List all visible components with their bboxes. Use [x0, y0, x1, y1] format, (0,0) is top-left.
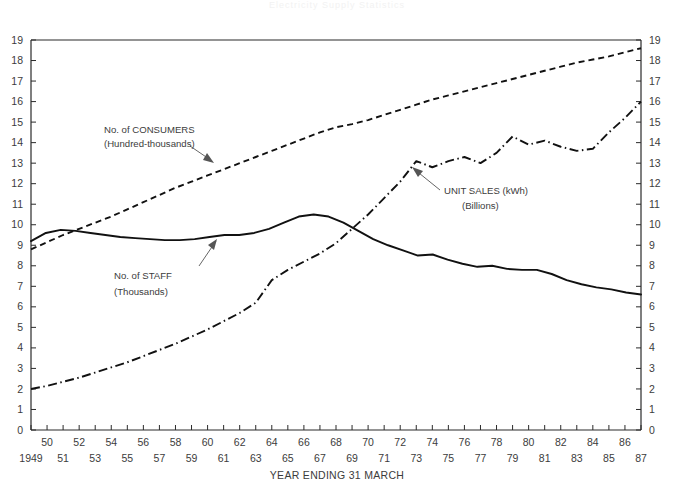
- y-tick-label-left-5: 5: [17, 321, 23, 333]
- y-tick-label-left-4: 4: [17, 341, 23, 353]
- y-tick-label-right-4: 4: [649, 341, 655, 353]
- consumers-leader-arrow: [203, 153, 214, 163]
- y-tick-label-left-19: 19: [11, 34, 23, 46]
- x-tick-label-71: 71: [378, 452, 390, 464]
- x-tick-label-62: 62: [234, 436, 246, 448]
- x-tick-label-70: 70: [362, 436, 374, 448]
- y-tick-label-left-6: 6: [17, 300, 23, 312]
- x-tick-label-65: 65: [282, 452, 294, 464]
- y-tick-label-left-10: 10: [11, 218, 23, 230]
- annotation-unit-sales: UNIT SALES (kWh) (Billions): [444, 185, 528, 211]
- x-tick-label-64: 64: [266, 436, 278, 448]
- chart-container: Electricity Supply Statistics 0123456789…: [0, 0, 674, 500]
- y-tick-label-right-7: 7: [649, 280, 655, 292]
- y-tick-label-right-18: 18: [649, 54, 661, 66]
- y-tick-label-left-9: 9: [17, 239, 23, 251]
- staff-annotation-line2: (Thousands): [114, 286, 168, 297]
- x-tick-label-85: 85: [603, 452, 615, 464]
- y-tick-label-right-10: 10: [649, 218, 661, 230]
- y-tick-label-right-3: 3: [649, 362, 655, 374]
- y-tick-label-right-8: 8: [649, 259, 655, 271]
- x-tick-label-86: 86: [619, 436, 631, 448]
- x-tick-label-80: 80: [523, 436, 535, 448]
- x-tick-label-79: 79: [507, 452, 519, 464]
- y-tick-label-right-13: 13: [649, 157, 661, 169]
- x-tick-label-51: 51: [57, 452, 69, 464]
- x-tick-label-1949: 1949: [19, 452, 43, 464]
- x-tick-label-50: 50: [41, 436, 53, 448]
- y-tick-label-left-1: 1: [17, 403, 23, 415]
- annotation-staff: No. of STAFF (Thousands): [114, 270, 172, 297]
- x-tick-label-56: 56: [138, 436, 150, 448]
- x-axis: 5052545658606264666870727476788082848619…: [19, 425, 647, 464]
- y-tick-label-left-12: 12: [11, 177, 23, 189]
- x-tick-label-69: 69: [346, 452, 358, 464]
- y-tick-label-right-15: 15: [649, 116, 661, 128]
- y-tick-label-left-17: 17: [11, 75, 23, 87]
- x-tick-label-87: 87: [635, 452, 647, 464]
- annotation-leaders: [190, 146, 440, 266]
- x-tick-label-67: 67: [314, 452, 326, 464]
- x-tick-label-74: 74: [426, 436, 438, 448]
- y-tick-label-left-3: 3: [17, 362, 23, 374]
- x-tick-label-78: 78: [491, 436, 503, 448]
- y-tick-label-right-19: 19: [649, 34, 661, 46]
- x-tick-label-52: 52: [73, 436, 85, 448]
- y-axis-left: 012345678910111213141516171819: [11, 34, 36, 436]
- x-tick-label-61: 61: [218, 452, 230, 464]
- x-tick-label-73: 73: [410, 452, 422, 464]
- line-chart-svg: 012345678910111213141516171819 012345678…: [0, 0, 674, 500]
- staff-leader-arrow: [208, 239, 217, 250]
- chart-axes: [31, 40, 641, 430]
- consumers-annotation-line1: No. of CONSUMERS: [104, 124, 195, 135]
- x-tick-label-68: 68: [330, 436, 342, 448]
- y-tick-label-right-1: 1: [649, 403, 655, 415]
- unit-sales-annotation-line1: UNIT SALES (kWh): [444, 185, 528, 196]
- y-tick-label-left-7: 7: [17, 280, 23, 292]
- x-tick-label-66: 66: [298, 436, 310, 448]
- y-tick-label-right-2: 2: [649, 383, 655, 395]
- axis-frame-path: [31, 40, 641, 430]
- x-tick-label-75: 75: [443, 452, 455, 464]
- x-tick-label-54: 54: [105, 436, 117, 448]
- annotation-consumers: No. of CONSUMERS (Hundred-thousands): [104, 124, 195, 149]
- x-tick-label-59: 59: [186, 452, 198, 464]
- x-tick-label-57: 57: [154, 452, 166, 464]
- y-tick-label-left-11: 11: [12, 198, 23, 210]
- y-tick-label-right-17: 17: [649, 75, 661, 87]
- y-tick-label-right-14: 14: [649, 136, 661, 148]
- x-tick-label-83: 83: [571, 452, 583, 464]
- unit-sales-annotation-line2: (Billions): [462, 200, 499, 211]
- y-tick-label-right-11: 11: [649, 198, 660, 210]
- y-tick-label-left-2: 2: [17, 383, 23, 395]
- y-tick-label-left-0: 0: [17, 424, 23, 436]
- y-tick-label-right-0: 0: [649, 424, 655, 436]
- x-tick-label-58: 58: [170, 436, 182, 448]
- x-tick-label-81: 81: [539, 452, 551, 464]
- y-tick-label-right-6: 6: [649, 300, 655, 312]
- y-tick-label-left-14: 14: [11, 136, 23, 148]
- y-tick-label-left-18: 18: [11, 54, 23, 66]
- y-tick-label-left-13: 13: [11, 157, 23, 169]
- staff-annotation-line1: No. of STAFF: [114, 270, 172, 281]
- data-series-layer: [31, 48, 641, 389]
- y-tick-label-right-5: 5: [649, 321, 655, 333]
- y-tick-label-left-16: 16: [11, 95, 23, 107]
- x-tick-label-63: 63: [250, 452, 262, 464]
- y-tick-label-left-15: 15: [11, 116, 23, 128]
- x-tick-label-76: 76: [459, 436, 471, 448]
- consumers-annotation-line2: (Hundred-thousands): [104, 138, 195, 149]
- x-tick-label-60: 60: [202, 436, 214, 448]
- x-tick-label-82: 82: [555, 436, 567, 448]
- x-axis-title: YEAR ENDING 31 MARCH: [270, 469, 404, 481]
- x-tick-label-53: 53: [89, 452, 101, 464]
- y-tick-label-right-16: 16: [649, 95, 661, 107]
- y-axis-right: 012345678910111213141516171819: [636, 34, 661, 436]
- x-tick-label-55: 55: [121, 452, 133, 464]
- y-tick-label-right-12: 12: [649, 177, 661, 189]
- x-tick-label-84: 84: [587, 436, 599, 448]
- y-tick-label-right-9: 9: [649, 239, 655, 251]
- x-tick-label-72: 72: [394, 436, 406, 448]
- y-tick-label-left-8: 8: [17, 259, 23, 271]
- series-line-staff: [31, 214, 641, 294]
